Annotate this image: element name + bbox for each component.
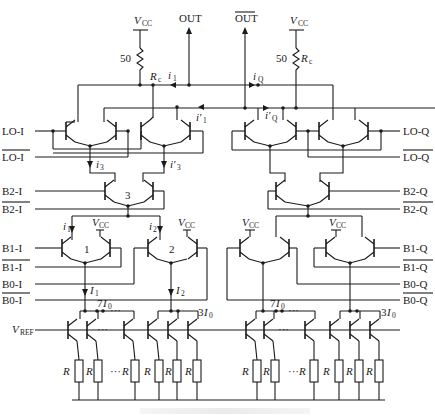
svg-text:···: ··· (97, 323, 108, 335)
svg-text:1: 1 (67, 225, 71, 234)
svg-text:2: 2 (169, 243, 175, 255)
svg-text:CC: CC (99, 221, 109, 230)
schematic-canvas: V CC 50 V CC 50 R c OUT OUT R c i 1 i′ (0, 0, 435, 417)
svg-text:Q: Q (272, 114, 278, 123)
svg-text:R: R (322, 365, 330, 377)
svg-text:B2-Q: B2-Q (403, 203, 428, 215)
svg-text:···: ··· (288, 304, 299, 316)
svg-text:R: R (300, 52, 308, 64)
svg-text:B0-Q: B0-Q (403, 278, 428, 290)
svg-text:REF: REF (20, 328, 34, 337)
svg-text:0: 0 (392, 311, 396, 320)
figure-caption-faint (140, 408, 310, 414)
svg-text:R: R (121, 365, 129, 377)
svg-text:CC: CC (185, 221, 195, 230)
out-terminal: OUT (179, 12, 202, 85)
svg-text:0: 0 (209, 311, 213, 320)
svg-text:LO-Q: LO-Q (403, 125, 429, 137)
svg-text:B0-I: B0-I (2, 294, 23, 306)
svg-text:B0-I: B0-I (2, 278, 23, 290)
svg-text:i: i (149, 220, 152, 232)
diff-pair-1-i: i 1 V CC 1 I 1 (35, 216, 121, 310)
svg-text:CC: CC (298, 19, 308, 28)
svg-text:R: R (262, 365, 270, 377)
svg-text:LO-I: LO-I (2, 151, 24, 163)
circuit-diagram: V CC 50 V CC 50 R c OUT OUT R c i 1 i′ (0, 0, 435, 417)
svg-text:OUT: OUT (179, 12, 202, 24)
svg-text:3: 3 (125, 189, 131, 201)
svg-text:B0-Q: B0-Q (403, 294, 428, 306)
left-input-labels: LO-I LO-I B2-I B2-I B1-I B1-I B0-I B0-I (2, 125, 30, 306)
current-source-arrays: V REF 7 I 0 ··· ··· 3 I 0 7 I 0 ··· (12, 297, 400, 337)
svg-text:50: 50 (120, 52, 132, 64)
svg-text:V: V (290, 14, 298, 26)
emitter-resistors: R R ··· R R R R R R ··· R R R R (62, 341, 385, 400)
svg-text:CC: CC (142, 19, 152, 28)
vcc-left: V CC 50 (120, 14, 152, 85)
svg-text:2: 2 (181, 289, 185, 298)
svg-text:B2-I: B2-I (2, 203, 23, 215)
svg-text:1: 1 (84, 243, 90, 255)
lo-quad-q (232, 85, 400, 172)
svg-text:B1-I: B1-I (2, 261, 23, 273)
svg-text:···: ··· (288, 365, 299, 377)
svg-text:R: R (241, 365, 249, 377)
svg-text:3: 3 (177, 163, 181, 172)
right-input-labels: LO-Q LO-Q B2-Q B2-Q B1-Q B1-Q B0-Q B0-Q (403, 125, 433, 306)
svg-text:···: ··· (110, 365, 121, 377)
svg-text:CC: CC (336, 221, 346, 230)
diff-pair-3-i: 3 (35, 172, 164, 218)
svg-text:i: i (168, 69, 171, 81)
svg-text:R: R (85, 365, 93, 377)
svg-text:1: 1 (173, 74, 177, 83)
svg-text:R: R (365, 365, 373, 377)
out-bar-terminal: OUT (235, 12, 258, 108)
svg-text:R: R (298, 365, 306, 377)
svg-text:B1-Q: B1-Q (403, 242, 428, 254)
svg-text:CC: CC (249, 221, 259, 230)
svg-text:B2-Q: B2-Q (403, 185, 428, 197)
svg-text:LO-Q: LO-Q (403, 151, 429, 163)
svg-text:R: R (149, 70, 157, 82)
svg-text:R: R (143, 365, 151, 377)
svg-text:2: 2 (153, 225, 157, 234)
svg-text:i: i (96, 158, 99, 170)
svg-text:R: R (345, 365, 353, 377)
svg-text:3: 3 (100, 163, 104, 172)
svg-text:Q: Q (258, 75, 264, 84)
svg-text:B1-Q: B1-Q (403, 261, 428, 273)
svg-text:i′: i′ (170, 158, 176, 170)
svg-text:···: ··· (278, 323, 289, 335)
svg-text:c: c (309, 57, 313, 66)
svg-text:i′: i′ (265, 109, 271, 121)
svg-text:R: R (184, 365, 192, 377)
svg-text:B1-I: B1-I (2, 242, 23, 254)
svg-text:V: V (134, 14, 142, 26)
svg-text:50: 50 (276, 52, 288, 64)
svg-text:OUT: OUT (235, 12, 258, 24)
svg-text:0: 0 (281, 302, 285, 311)
svg-text:R: R (62, 365, 70, 377)
svg-text:i: i (253, 70, 256, 82)
svg-text:···: ··· (110, 304, 121, 316)
svg-text:1: 1 (203, 116, 207, 125)
svg-text:R: R (164, 365, 172, 377)
svg-text:i: i (63, 220, 66, 232)
svg-text:i′: i′ (196, 111, 202, 123)
svg-text:B2-I: B2-I (2, 185, 23, 197)
svg-text:c: c (158, 75, 162, 84)
lo-quad-i: i 3 i′ 3 (35, 85, 203, 172)
svg-text:V: V (12, 323, 20, 335)
diff-pair-3-q (268, 172, 400, 218)
svg-text:LO-I: LO-I (2, 125, 24, 137)
vcc-right: V CC 50 R c (276, 14, 313, 108)
diff-pairs-q-bottom: V CC V CC (227, 216, 400, 310)
